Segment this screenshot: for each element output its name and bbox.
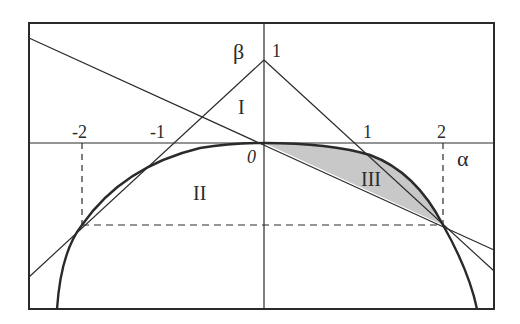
region-ii-label: II [193, 182, 206, 204]
alpha-tick-neg2: -2 [72, 122, 87, 142]
alpha-tick-neg1: -1 [150, 122, 165, 142]
alpha-tick-1: 1 [363, 122, 372, 142]
beta-axis-label: β [233, 39, 244, 64]
diagram-canvas: β 1 α -2 -1 1 2 0 I II III [0, 0, 520, 324]
region-iii-label: III [361, 168, 381, 190]
region-i-label: I [238, 96, 245, 118]
boundary-curve [57, 143, 477, 309]
alpha-tick-2: 2 [437, 122, 446, 142]
region-iii-shade [264, 143, 443, 225]
plot-frame [29, 23, 494, 309]
alpha-axis-label: α [457, 146, 469, 171]
beta-tick-1: 1 [272, 41, 281, 61]
origin-label: 0 [247, 147, 256, 167]
